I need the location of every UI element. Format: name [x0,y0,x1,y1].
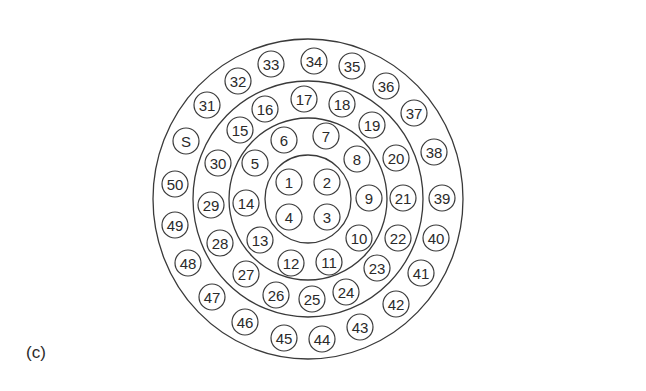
node-22: 22 [385,225,411,251]
node-38: 38 [421,139,447,165]
node-3: 3 [314,204,340,230]
node-39: 39 [429,185,455,211]
node-label: 36 [378,78,395,95]
ring-1 [265,155,351,243]
node-2: 2 [314,169,340,195]
node-32: 32 [225,68,251,94]
node-15: 15 [227,117,253,143]
node-label: 24 [338,284,355,301]
node-label: 26 [268,287,285,304]
node-label: 46 [237,314,254,331]
node-label: 49 [167,217,184,234]
node-13: 13 [247,227,273,253]
node-label: 20 [388,150,405,167]
node-37: 37 [401,100,427,126]
node-label: 10 [351,230,368,247]
node-34: 34 [301,48,327,74]
node-label: 22 [390,230,407,247]
node-label: 37 [406,105,423,122]
node-label: 31 [199,97,216,114]
node-label: 1 [285,174,293,191]
node-label: 45 [276,330,293,347]
node-label: 41 [413,265,430,282]
node-label: 7 [322,128,330,145]
node-label: 34 [306,53,323,70]
node-49: 49 [162,212,188,238]
node-33: 33 [258,51,284,77]
node-label: 2 [323,174,331,191]
node-label: 40 [428,230,445,247]
node-17: 17 [291,86,317,112]
node-36: 36 [373,73,399,99]
node-24: 24 [333,279,359,305]
node-31: 31 [194,92,220,118]
node-23: 23 [364,255,390,281]
nodes-group: 1234567891011121314151617181920212223242… [162,48,455,352]
node-26: 26 [263,282,289,308]
node-label: 11 [321,254,337,271]
concentric-ring-diagram: 1234567891011121314151617181920212223242… [0,0,646,391]
node-20: 20 [383,145,409,171]
node-21: 21 [390,185,416,211]
node-label: 32 [230,73,247,90]
node-25: 25 [299,286,325,312]
node-29: 29 [198,192,224,218]
node-4: 4 [276,204,302,230]
node-label: 47 [204,289,221,306]
node-label: 38 [426,144,443,161]
node-42: 42 [383,291,409,317]
node-6: 6 [271,127,297,153]
node-45: 45 [271,325,297,351]
node-label: 9 [365,190,373,207]
node-19: 19 [359,112,385,138]
node-label: 8 [353,151,361,168]
node-50: 50 [162,171,188,197]
node-label: 29 [203,197,220,214]
node-label: 50 [167,176,184,193]
node-11: 11 [316,249,342,275]
node-label: 18 [334,96,351,113]
node-label: S [181,133,191,150]
node-label: 15 [232,122,249,139]
node-label: 48 [180,255,197,272]
node-10: 10 [346,225,372,251]
node-14: 14 [233,190,259,216]
node-48: 48 [175,250,201,276]
node-35: 35 [339,53,365,79]
node-44: 44 [309,326,335,352]
node-label: 4 [285,209,293,226]
node-27: 27 [233,261,259,287]
node-label: 14 [238,195,255,212]
node-label: 44 [314,331,331,348]
node-label: 21 [395,190,412,207]
node-label: 39 [434,190,451,207]
node-s: S [173,128,199,154]
panel-label: (c) [26,343,46,363]
node-label: 3 [323,209,331,226]
node-label: 17 [296,91,313,108]
node-label: 35 [344,58,361,75]
node-label: 42 [388,296,405,313]
node-7: 7 [313,123,339,149]
ring-3 [193,81,423,317]
node-label: 6 [280,132,288,149]
node-5: 5 [242,150,268,176]
node-1: 1 [276,169,302,195]
node-label: 16 [257,101,274,118]
node-label: 43 [352,319,369,336]
node-41: 41 [408,260,434,286]
node-40: 40 [423,225,449,251]
node-30: 30 [205,150,231,176]
node-28: 28 [207,230,233,256]
node-label: 27 [238,266,255,283]
node-46: 46 [232,309,258,335]
node-47: 47 [199,284,225,310]
node-16: 16 [252,96,278,122]
node-label: 33 [263,56,280,73]
node-label: 25 [304,291,321,308]
node-label: 12 [283,255,300,272]
node-43: 43 [347,314,373,340]
node-label: 13 [252,232,269,249]
node-label: 19 [364,117,381,134]
node-8: 8 [344,146,370,172]
